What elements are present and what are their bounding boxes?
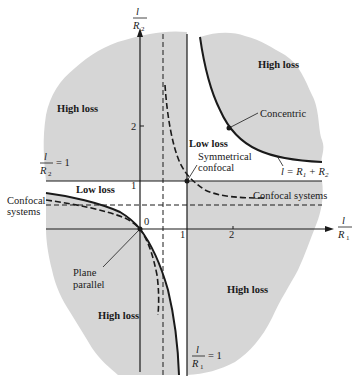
svg-text:l = R1 + R2: l = R1 + R2 xyxy=(281,166,329,179)
annotation-confocal-systems-left-1: Confocal xyxy=(7,195,46,206)
y-tick-label-2: 2 xyxy=(131,121,136,132)
x-axis-arrow-icon xyxy=(325,226,334,232)
y-tick-label-1: 1 xyxy=(131,180,136,191)
svg-text:l: l xyxy=(44,151,47,162)
svg-text:R: R xyxy=(39,165,47,176)
high-loss-region-lower-left xyxy=(46,229,140,375)
y-axis-label-num: l xyxy=(136,6,139,17)
x-tick-label-1: 1 xyxy=(180,229,185,240)
label-high-loss-lower-right: High loss xyxy=(227,284,268,295)
x-axis-label: l R 1 xyxy=(337,215,352,242)
concentric-equation-label: l = R1 + R2 xyxy=(281,166,329,179)
high-loss-region-lower-right xyxy=(187,181,323,375)
x-axis-label-num: l xyxy=(342,215,345,226)
x-tick-label-2: 2 xyxy=(229,229,234,240)
svg-text:1: 1 xyxy=(200,363,204,371)
x-axis-label-den: R xyxy=(337,229,345,240)
svg-text:l: l xyxy=(196,344,199,355)
annotation-concentric: Concentric xyxy=(260,108,306,119)
y-axis-label-den: R xyxy=(132,20,140,31)
stability-diagram: l R 2 l R 1 1 2 1 2 0 l R 2 = 1 l R 1 = … xyxy=(0,0,354,381)
label-high-loss-lower-left: High loss xyxy=(98,310,139,321)
svg-text:= 1: = 1 xyxy=(208,350,222,361)
label-high-loss-upper-right: High loss xyxy=(258,59,299,70)
annotation-symmetrical-confocal-2: confocal xyxy=(198,162,234,173)
annotation-confocal-systems-left-2: systems xyxy=(7,206,40,217)
y-axis-label: l R 2 xyxy=(132,6,147,33)
annotation-confocal-systems-right: Confocal systems xyxy=(253,190,327,201)
high-loss-shading xyxy=(44,31,324,375)
high-loss-region-left-band xyxy=(46,193,140,229)
x-axis-label-sub: 1 xyxy=(346,234,350,242)
y-axis-label-sub: 2 xyxy=(141,25,145,33)
annotation-plane-parallel-2: parallel xyxy=(73,279,105,290)
svg-text:= 1: = 1 xyxy=(56,157,70,168)
annotation-plane-parallel-1: Plane xyxy=(73,267,97,278)
svg-text:2: 2 xyxy=(48,170,52,178)
high-loss-region-lower-sliver xyxy=(140,229,179,375)
svg-text:R: R xyxy=(191,358,199,369)
label-low-loss-center: Low loss xyxy=(189,138,228,149)
symmetrical-confocal-leader xyxy=(187,165,197,181)
label-high-loss-upper-left: High loss xyxy=(57,103,98,114)
annotation-symmetrical-confocal-1: Symmetrical xyxy=(198,151,252,162)
label-low-loss-left: Low loss xyxy=(76,184,115,195)
origin-label: 0 xyxy=(144,216,149,227)
